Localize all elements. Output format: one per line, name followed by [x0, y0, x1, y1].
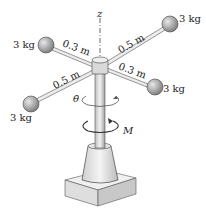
rotating-assembly-diagram: [0, 0, 206, 212]
mass-label-right: 3 kg: [163, 84, 185, 94]
mass-label-upper-left: 3 kg: [13, 40, 35, 50]
mass-ball-upper-right: [162, 16, 178, 32]
mass-label-lower-left: 3 kg: [10, 113, 32, 123]
hub: [92, 57, 108, 74]
mass-label-upper-right: 3 kg: [179, 14, 201, 24]
mass-ball-right: [147, 79, 163, 95]
mass-ball-upper-left: [38, 37, 54, 53]
pedestal-cone: [82, 143, 118, 183]
angular-rate-label: θ̇: [73, 94, 79, 104]
mass-ball-lower-left: [23, 96, 39, 112]
moment-label: M: [123, 126, 133, 136]
z-axis-label: z: [97, 9, 102, 19]
shaft: [95, 70, 105, 148]
